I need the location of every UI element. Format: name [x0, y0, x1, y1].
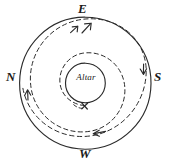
ink-layer: [20, 17, 151, 149]
arrow-top-outer-icon: [82, 23, 91, 33]
compass-label-south: S: [154, 70, 161, 83]
compass-label-west: W: [79, 147, 91, 160]
circumambulation-diagram: [0, 0, 170, 166]
altar-circle: [65, 63, 105, 103]
outer-circle: [20, 17, 151, 149]
start-mark-x-icon: [82, 103, 88, 109]
arrow-top-inner-icon: [71, 26, 78, 32]
diagram-page: N E S W Altar: [0, 0, 170, 166]
altar-label: Altar: [65, 73, 107, 82]
spiral-outer-lap: [22, 31, 146, 137]
compass-label-north: N: [6, 70, 15, 83]
compass-label-east: E: [78, 2, 87, 15]
